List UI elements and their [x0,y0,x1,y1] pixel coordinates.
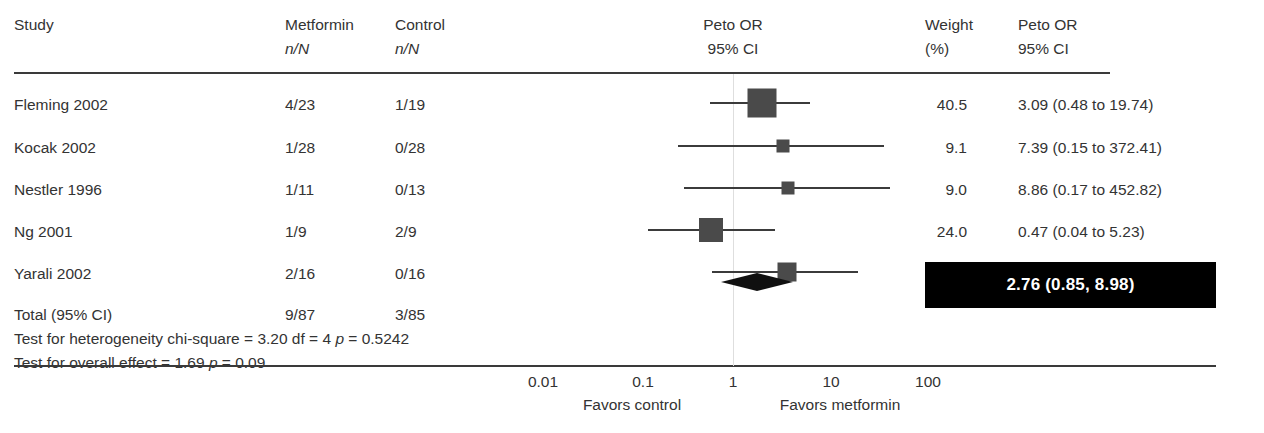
heterogeneity-test-pre: Test for heterogeneity chi-square = 3.20… [14,330,335,347]
column-header-weight: Weight [925,16,973,34]
axis-tick-2: 1 [729,373,738,391]
column-header-treatment-sub: n/N [285,40,309,58]
column-header-control-sub: n/N [395,40,419,58]
summary-diamond [721,271,793,293]
row-treatment-value: 2/16 [285,265,315,283]
header-rule [14,72,1110,74]
row-treatment-value: 1/28 [285,139,315,157]
effect-marker-square [777,140,790,153]
summary-diamond-icon [721,271,793,293]
row-control-value: 2/9 [395,223,417,241]
row-control-value: 0/13 [395,181,425,199]
row-effect-value: 0.47 (0.04 to 5.23) [1018,223,1145,241]
column-header-effect: Peto OR [1018,16,1077,34]
summary-effect-box: 2.76 (0.85, 8.98) [925,262,1216,308]
overall-effect-post: = 0.09 [218,354,266,371]
confidence-interval-line [648,229,775,231]
axis-label-favors-metformin: Favors metformin [780,396,901,414]
column-header-plot-sub: 95% CI [708,40,759,58]
row-control-value: 1/19 [395,96,425,114]
row-effect-value: 7.39 (0.15 to 372.41) [1018,139,1162,157]
row-treatment-value: 4/23 [285,96,315,114]
row-study-label: Kocak 2002 [14,139,96,157]
row-weight-value: 9.1 [945,139,967,157]
total-label: Total (95% CI) [14,306,112,324]
column-header-control: Control [395,16,445,34]
forest-plot-figure: Study Metformin n/N Control n/N Peto OR … [0,0,1264,433]
row-weight-value: 24.0 [937,223,967,241]
axis-tick-3: 10 [822,373,839,391]
row-treatment-value: 1/9 [285,223,307,241]
overall-effect-pre: Test for overall effect = 1.69 [14,354,209,371]
row-study-label: Nestler 1996 [14,181,102,199]
column-header-treatment: Metformin [285,16,354,34]
confidence-interval-line [712,271,858,273]
axis-tick-0: 0.01 [528,373,558,391]
confidence-interval-line [710,102,810,104]
row-study-label: Fleming 2002 [14,96,108,114]
column-header-effect-sub: 95% CI [1018,40,1069,58]
axis-tick-1: 0.1 [632,373,654,391]
summary-effect-value: 2.76 (0.85, 8.98) [1006,275,1134,295]
row-control-value: 0/28 [395,139,425,157]
confidence-interval-line [684,187,890,189]
effect-marker-square [778,263,797,282]
effect-marker-square [699,218,723,242]
axis-tick-4: 100 [915,373,941,391]
row-weight-value: 40.5 [937,96,967,114]
row-study-label: Yarali 2002 [14,265,91,283]
effect-marker-square [748,89,777,118]
effect-marker-square [782,182,795,195]
row-control-value: 0/16 [395,265,425,283]
heterogeneity-test-p-symbol: p [335,330,344,347]
total-treatment-value: 9/87 [285,306,315,324]
row-study-label: Ng 2001 [14,223,73,241]
axis-label-favors-control: Favors control [583,396,681,414]
reference-line-at-1 [733,74,734,366]
heterogeneity-test-line: Test for heterogeneity chi-square = 3.20… [14,330,409,348]
column-header-study: Study [14,16,54,34]
column-header-weight-sub: (%) [925,40,949,58]
column-header-plot: Peto OR [703,16,762,34]
overall-effect-p-symbol: p [209,354,218,371]
row-treatment-value: 1/11 [285,181,314,199]
heterogeneity-test-post: = 0.5242 [344,330,409,347]
confidence-interval-line [678,145,884,147]
bottom-rule [14,365,1216,367]
total-control-value: 3/85 [395,306,425,324]
row-weight-value: 9.0 [945,181,967,199]
overall-effect-test-line: Test for overall effect = 1.69 p = 0.09 [14,354,265,372]
row-effect-value: 8.86 (0.17 to 452.82) [1018,181,1162,199]
row-effect-value: 3.09 (0.48 to 19.74) [1018,96,1153,114]
